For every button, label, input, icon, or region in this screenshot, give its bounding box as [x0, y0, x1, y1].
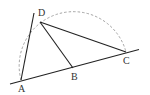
segment-DB: [40, 22, 73, 68]
label-B: B: [71, 71, 78, 82]
geometry-diagram: D A B C: [0, 0, 150, 95]
label-A: A: [18, 83, 26, 94]
segment-AD: [21, 13, 34, 80]
label-D: D: [38, 7, 45, 18]
label-C: C: [123, 55, 130, 66]
segment-DC: [40, 22, 126, 52]
